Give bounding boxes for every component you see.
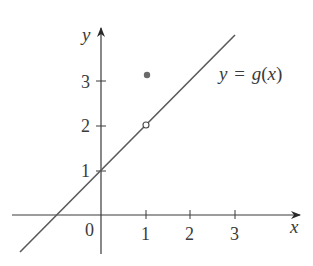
x-tick-label-3: 3 bbox=[230, 224, 239, 244]
y-tick-label-2: 2 bbox=[81, 116, 90, 136]
x-tick-label-2: 2 bbox=[185, 224, 194, 244]
y-axis-label: y bbox=[80, 24, 91, 45]
origin-label: 0 bbox=[85, 220, 94, 240]
graph-canvas: y x 0 1 2 3 1 2 3 y = g(x) bbox=[0, 0, 313, 266]
y-tick-label-1: 1 bbox=[81, 161, 90, 181]
x-tick-label-1: 1 bbox=[141, 224, 150, 244]
function-line bbox=[20, 35, 235, 252]
x-axis-label: x bbox=[289, 216, 299, 237]
y-tick-label-3: 3 bbox=[81, 72, 90, 92]
function-label: y = g(x) bbox=[217, 63, 282, 85]
open-point-icon bbox=[143, 122, 149, 128]
filled-point-icon bbox=[144, 72, 150, 78]
